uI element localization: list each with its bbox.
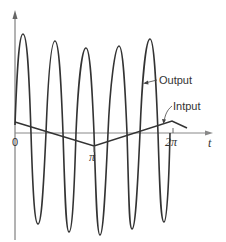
x-tick-pi: π (89, 150, 96, 164)
output-leader-arrow-icon (143, 81, 149, 85)
output-curve (15, 34, 170, 235)
input-label: Intput (173, 100, 201, 112)
x-axis-label: t (208, 136, 212, 150)
y-axis-arrow-icon (13, 10, 18, 19)
output-label: Output (159, 74, 192, 86)
x-tick-two-pi: 2π (165, 135, 178, 149)
x-tick-zero: 0 (12, 136, 18, 148)
x-axis-arrow-icon (205, 131, 213, 136)
oscillation-diagram: Output Intput 0 π 2π t (0, 0, 226, 242)
